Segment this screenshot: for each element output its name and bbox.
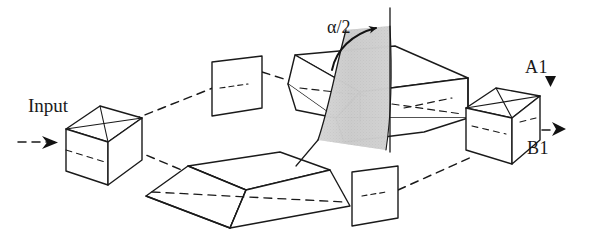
input-beamsplitter-cube <box>66 106 142 185</box>
bottom-trapezoid-prism <box>146 152 350 228</box>
figure-root: Input α/2 A1 B1 <box>0 0 589 236</box>
label-input: Input <box>28 96 68 115</box>
label-half-angle-alpha: α/2 <box>327 18 350 36</box>
upper-left-plate <box>212 56 262 116</box>
lower-right-plate <box>352 166 398 226</box>
interferometer-diagram <box>0 0 589 236</box>
output-arrows <box>545 76 566 136</box>
beam-lower-arm-3 <box>398 156 474 190</box>
input-arrow <box>42 136 58 149</box>
label-output-a1: A1 <box>525 58 548 76</box>
label-output-b1: B1 <box>527 139 549 157</box>
